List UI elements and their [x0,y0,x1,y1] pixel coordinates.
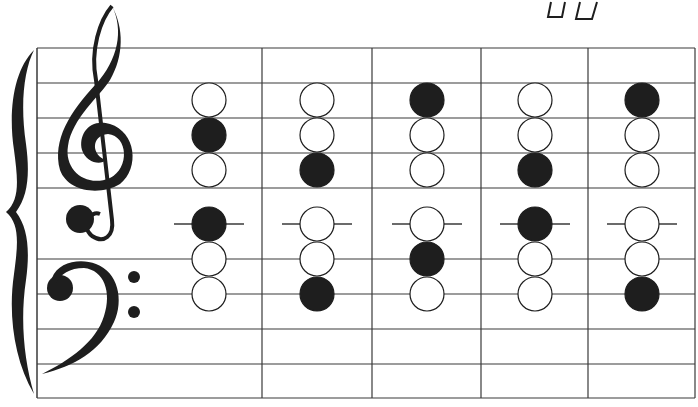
filled-note-icon [300,153,334,187]
filled-note-icon [518,153,552,187]
brace-icon [6,50,34,394]
open-note-icon [410,207,444,241]
open-note-icon [410,153,444,187]
filled-note-icon [410,242,444,276]
open-note-icon [625,118,659,152]
filled-note-icon [300,277,334,311]
note-column-4 [500,83,570,311]
open-note-icon [625,242,659,276]
open-note-icon [518,83,552,117]
note-grid [174,83,677,311]
open-note-icon [518,277,552,311]
open-note-icon [300,118,334,152]
grand-staff-diagram [0,0,698,407]
open-note-icon [192,153,226,187]
filled-note-icon [625,83,659,117]
open-note-icon [192,242,226,276]
open-note-icon [300,207,334,241]
open-note-icon [625,153,659,187]
top-right-marks [548,2,597,19]
open-note-icon [300,83,334,117]
open-note-icon [410,277,444,311]
open-note-icon [192,277,226,311]
filled-note-icon [625,277,659,311]
filled-note-icon [192,207,226,241]
open-note-icon [410,118,444,152]
note-column-1 [174,83,244,311]
staff-lines [37,48,695,398]
open-note-icon [518,118,552,152]
filled-note-icon [192,118,226,152]
filled-note-icon [410,83,444,117]
note-column-5 [607,83,677,311]
treble-clef-icon [58,6,133,239]
open-note-icon [625,207,659,241]
open-note-icon [300,242,334,276]
open-note-icon [192,83,226,117]
bass-clef-icon [42,261,140,374]
staff-canvas [0,0,698,407]
note-column-2 [282,83,352,311]
filled-note-icon [518,207,552,241]
open-note-icon [518,242,552,276]
note-column-3 [392,83,462,311]
